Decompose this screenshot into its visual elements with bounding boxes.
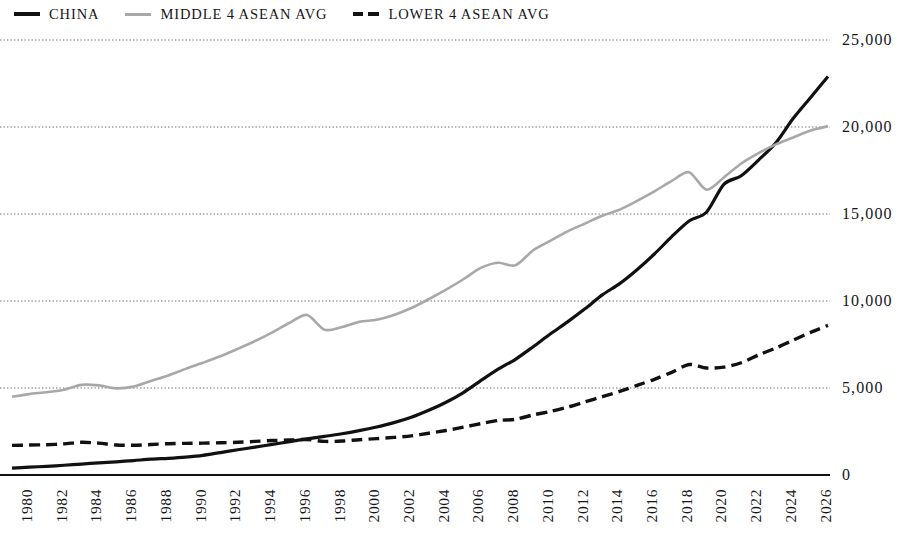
x-axis-tick-label: 2004	[435, 489, 453, 522]
y-axis-tick-label: 25,000	[842, 31, 893, 49]
y-axis-tick-label: 0	[842, 466, 851, 484]
x-axis-tick-label: 2026	[817, 489, 835, 522]
x-axis-tick-label: 2006	[469, 489, 487, 522]
x-axis-tick-label: 2024	[782, 489, 800, 522]
x-axis-tick-label: 1982	[53, 489, 71, 522]
x-axis-tick-label: 2002	[400, 489, 418, 522]
series-line	[12, 77, 828, 469]
x-axis-tick-label: 2016	[643, 489, 661, 522]
y-axis-tick-label: 5,000	[842, 379, 884, 397]
y-axis-tick-label: 10,000	[842, 292, 893, 310]
x-axis-tick-label: 1986	[122, 489, 140, 522]
x-axis-tick-label: 1998	[331, 489, 349, 522]
x-axis-tick-label: 1984	[87, 489, 105, 522]
x-axis-tick-label: 1980	[18, 489, 36, 522]
x-axis-tick-label: 2012	[574, 489, 592, 522]
x-axis-tick-label: 2010	[539, 489, 557, 522]
x-axis-tick-label: 2000	[365, 489, 383, 522]
x-axis-tick-label: 1988	[157, 489, 175, 522]
x-axis-tick-label: 1996	[296, 489, 314, 522]
plot-area	[0, 0, 901, 536]
x-axis-tick-label: 2018	[678, 489, 696, 522]
x-axis-tick-label: 1994	[261, 489, 279, 522]
x-axis-tick-label: 1992	[226, 489, 244, 522]
x-axis-tick-label: 2020	[712, 489, 730, 522]
x-axis-tick-label: 2014	[608, 489, 626, 522]
y-axis-tick-label: 15,000	[842, 205, 893, 223]
x-axis-tick-label: 2008	[504, 489, 522, 522]
series-line	[12, 126, 828, 397]
x-axis-tick-label: 1990	[192, 489, 210, 522]
chart-container: CHINA MIDDLE 4 ASEAN AVG LOWER 4 ASEAN A…	[0, 0, 901, 536]
x-axis-tick-label: 2022	[747, 489, 765, 522]
y-axis-tick-label: 20,000	[842, 118, 893, 136]
